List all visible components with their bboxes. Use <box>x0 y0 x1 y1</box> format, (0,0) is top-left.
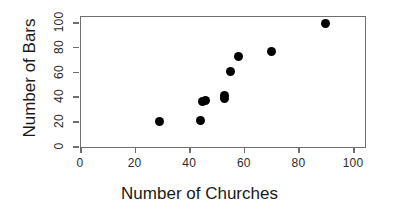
x-axis-tick <box>353 147 355 153</box>
x-axis-tick <box>135 147 137 153</box>
x-axis-tick-label: 20 <box>115 156 155 170</box>
x-axis-tick <box>298 147 300 153</box>
scatter-plot-figure: 020406080100 020406080100 Number of Chur… <box>0 0 399 216</box>
y-axis-tick-label: 40 <box>51 83 67 109</box>
y-axis-tick-label: 60 <box>51 59 67 85</box>
y-axis-label: Number of Bars <box>20 0 40 158</box>
y-axis-tick <box>73 146 79 148</box>
x-axis-tick-label: 100 <box>333 156 373 170</box>
x-axis-tick <box>244 147 246 153</box>
x-axis-label: Number of Churches <box>0 184 399 204</box>
y-axis-tick <box>73 121 79 123</box>
x-axis-tick-label: 80 <box>278 156 318 170</box>
x-axis-tick <box>80 147 82 153</box>
y-axis-tick-label: 20 <box>51 108 67 134</box>
x-axis-tick-label: 60 <box>224 156 264 170</box>
y-axis-tick <box>73 96 79 98</box>
y-axis-tick-label: 100 <box>51 9 67 35</box>
y-axis-tick-label: 0 <box>51 133 67 159</box>
x-axis-tick-label: 40 <box>169 156 209 170</box>
y-axis-tick <box>73 22 79 24</box>
y-axis-tick <box>73 47 79 49</box>
y-axis-tick <box>73 72 79 74</box>
plot-frame <box>80 16 366 148</box>
y-axis-tick-label: 80 <box>51 34 67 60</box>
x-axis-tick <box>189 147 191 153</box>
